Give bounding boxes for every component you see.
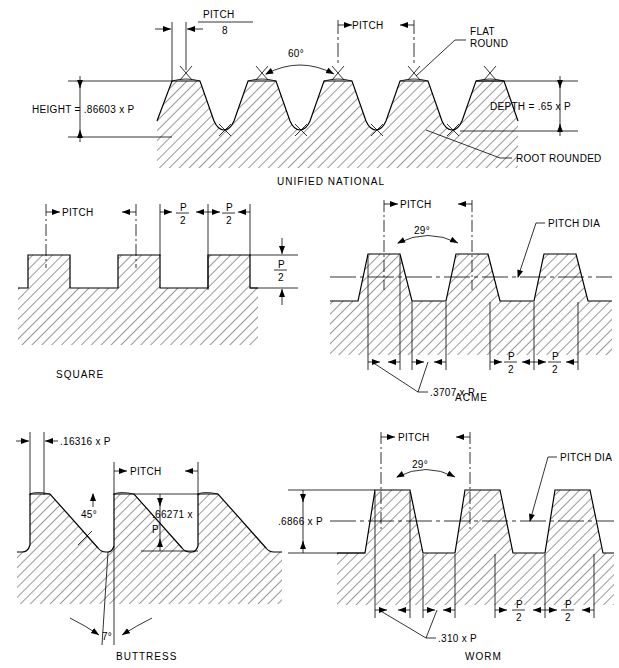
sq-caption: SQUARE <box>56 369 104 380</box>
worm-pitch-dia-label: PITCH DIA <box>560 452 612 463</box>
worm-angle-29: 29° <box>397 459 455 477</box>
worm-angle-value: 29° <box>412 459 428 470</box>
worm-flat-width-label: .310 x P <box>438 633 477 644</box>
sq-half-pitch-2-den: 2 <box>226 215 232 226</box>
acme-pitch-label: PITCH <box>400 199 432 210</box>
un-depth-label: DEPTH = .65 x P <box>490 101 571 112</box>
buttress-depth-top-label: .66271 x <box>152 509 193 520</box>
acme-half-pitch-2-den: 2 <box>552 364 558 375</box>
acme-half-pitch-1-den: 2 <box>508 364 514 375</box>
buttress-crest-flat-dimension: .16316 x P <box>16 432 111 495</box>
un-caption: UNIFIED NATIONAL <box>277 176 385 187</box>
acme-material-body <box>330 254 612 355</box>
buttress-caption: BUTTRESS <box>116 651 177 662</box>
un-height-dimension: HEIGHT = .86603 x P <box>32 76 172 142</box>
un-angle-value: 60° <box>288 48 304 59</box>
un-pitch-label: PITCH <box>352 20 384 31</box>
worm-half-pitch-2-num: P <box>565 599 572 610</box>
profile-worm: PITCH 29° PITCH DIA .6866 x P <box>278 432 614 662</box>
buttress-material-body <box>17 493 282 605</box>
worm-material-body <box>337 490 614 605</box>
buttress-crest-flat-label: .16316 x P <box>60 436 111 447</box>
buttress-pitch-dimension: PITCH <box>114 462 198 495</box>
un-pitch-dimension: PITCH <box>338 20 414 66</box>
buttress-pitch-label: PITCH <box>130 466 162 477</box>
sq-half-pitch-2-num: P <box>226 202 233 213</box>
profile-square: PITCH P 2 P 2 P 2 SQUARE <box>18 202 298 380</box>
un-angle-60: 60° <box>266 48 334 74</box>
un-height-label: HEIGHT = .86603 x P <box>32 104 135 115</box>
acme-angle-29: 29° <box>398 225 458 243</box>
buttress-angle-45-value: 45° <box>81 509 97 520</box>
un-pitch-over-8-dimension: PITCH 8 <box>155 9 253 82</box>
acme-pitch-dia-label: PITCH DIA <box>548 218 600 229</box>
un-round-label: ROUND <box>470 38 508 49</box>
un-flat-label: FLAT <box>470 26 495 37</box>
thread-profiles-figure: PITCH 8 PITCH 60° HEIGHT = .86603 x P <box>0 0 619 668</box>
profile-buttress: .16316 x P PITCH 45° .66271 x P <box>16 432 282 662</box>
buttress-angle-7-value: 7° <box>102 631 112 642</box>
sq-depth-den: 2 <box>278 272 284 283</box>
acme-half-pitch-2-num: P <box>552 351 559 362</box>
sq-half-pitch-1-den: 2 <box>180 215 186 226</box>
worm-caption: WORM <box>465 651 502 662</box>
un-material-body <box>157 79 518 168</box>
worm-half-pitch-1-den: 2 <box>516 612 522 623</box>
acme-caption: ACME <box>455 392 488 403</box>
sq-depth-num: P <box>278 259 285 270</box>
profile-unified-national: PITCH 8 PITCH 60° HEIGHT = .86603 x P <box>32 9 602 187</box>
worm-pitch-label: PITCH <box>398 432 430 443</box>
worm-height-label: .6866 x P <box>278 516 323 527</box>
worm-half-pitch-2-den: 2 <box>565 612 571 623</box>
un-root-rounded-label: ROOT ROUNDED <box>516 153 602 164</box>
acme-angle-value: 29° <box>414 225 430 236</box>
worm-half-pitch-1-num: P <box>516 599 523 610</box>
sq-material-body <box>18 255 258 345</box>
profile-acme: PITCH 29° PITCH DIA .3707 x P <box>330 199 612 403</box>
un-pitch8-numerator: PITCH <box>203 9 235 20</box>
buttress-depth-bottom-label: P <box>152 524 159 535</box>
sq-pitch-label: PITCH <box>62 207 94 218</box>
acme-half-pitch-1-num: P <box>508 351 515 362</box>
un-pitch8-denominator: 8 <box>222 25 228 36</box>
un-crest-x-marks <box>180 66 496 80</box>
sq-half-pitch-1-num: P <box>180 202 187 213</box>
worm-height-dimension: .6866 x P <box>278 490 375 553</box>
